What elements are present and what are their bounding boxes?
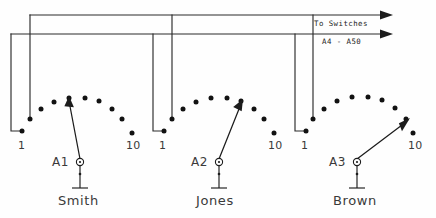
bank-2-drop-wires	[153, 15, 172, 131]
selector-bank-diagram: To Switches A4 - A50 1 10 A1 Smith 1 10 …	[0, 0, 436, 218]
diagram-canvas	[0, 0, 436, 218]
bank-2-terminal-10-label: 10	[268, 140, 283, 151]
bank-3-terminal-1-wire	[295, 34, 306, 131]
bank-3-pivot-core	[356, 161, 358, 163]
bank-1-contact-10	[130, 131, 135, 136]
bank-1-wiper	[64, 96, 88, 188]
bank-1-contact-2	[28, 117, 33, 122]
bank-2-wiper-arrowhead	[233, 99, 243, 111]
bank-3-contact-5	[350, 95, 355, 100]
bank-1-contact-1	[20, 129, 25, 134]
bank-1-terminal-1-label: 1	[18, 140, 25, 151]
bank-1-selector-id-label: A1	[52, 156, 69, 168]
bank-2-contact-4	[194, 100, 199, 105]
bank-3-stem-node	[356, 173, 359, 176]
bank-2-terminal-1-wire	[153, 34, 164, 131]
bank-3-selector-id-label: A3	[329, 156, 346, 168]
bank-1-wiper-arrowhead	[64, 96, 74, 107]
bank-2-stem-node	[218, 173, 221, 176]
bank-2-contact-5	[209, 96, 214, 101]
bank-3-contact-1	[304, 129, 309, 134]
bank-3-wiper-arm	[357, 122, 406, 159]
bank-2-contact-6	[225, 96, 230, 101]
bank-2-contact-2	[170, 117, 175, 122]
to-switches-label: To Switches	[314, 20, 368, 27]
bank-1-contact-7	[97, 99, 102, 104]
bank-2-contact-9	[262, 117, 267, 122]
bank-3-terminal-10-label: 10	[408, 140, 423, 151]
bank-2-subscriber-name-label: Jones	[196, 194, 234, 207]
bank-3-terminal-1-label: 1	[301, 140, 308, 151]
bus-upper-arrowhead	[380, 11, 393, 20]
bank-1-drop-wires	[11, 15, 30, 131]
bank-3-subscriber-name-label: Brown	[333, 194, 377, 207]
bank-3-contact-2	[311, 117, 316, 122]
bank-2-contact-8	[252, 107, 257, 112]
bank-3-contact-4	[335, 99, 340, 104]
bank-3-contact-3	[322, 107, 327, 112]
bank-2-wiper-arm	[219, 104, 241, 159]
bank-2-contact-10	[272, 131, 277, 136]
bank-3-contact-arc	[304, 95, 416, 136]
bank-1-pivot-core	[79, 161, 81, 163]
bus-lower-arrowhead	[380, 30, 393, 39]
bank-1-contact-9	[120, 117, 125, 122]
bank-1-contact-4	[52, 100, 57, 105]
bank-2-pivot-core	[218, 161, 220, 163]
bank-1-contact-6	[83, 96, 88, 101]
bank-1-contact-3	[39, 107, 44, 112]
bank-1-stem-node	[79, 173, 82, 176]
bank-1-subscriber-name-label: Smith	[58, 194, 99, 207]
bank-3-contact-8	[393, 106, 398, 111]
bank-2-contact-3	[181, 107, 186, 112]
bank-2-wiper	[211, 99, 243, 188]
switch-range-label: A4 - A50	[322, 38, 361, 45]
bank-2-terminal-1-label: 1	[159, 140, 166, 151]
bank-1-terminal-1-wire	[11, 34, 22, 131]
bank-2-selector-id-label: A2	[191, 156, 208, 168]
bank-2-contact-arc	[162, 96, 277, 136]
bank-1-terminal-10-label: 10	[126, 140, 141, 151]
bank-2-contact-1	[162, 129, 167, 134]
bank-1-wiper-arm	[69, 101, 80, 159]
bank-3-contact-6	[366, 95, 371, 100]
bank-3-drop-wires	[295, 15, 313, 131]
bank-3-contact-10	[411, 131, 416, 136]
bank-1-contact-arc	[20, 96, 135, 136]
bank-3-wiper	[349, 118, 410, 188]
bank-3-contact-7	[380, 98, 385, 103]
bank-1-contact-8	[110, 107, 115, 112]
